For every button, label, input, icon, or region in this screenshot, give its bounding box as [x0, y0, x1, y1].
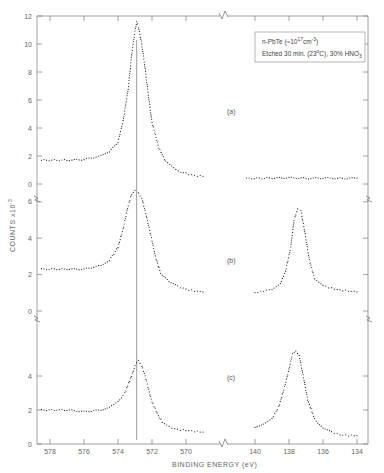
y-axis-title: COUNTS x10-3	[7, 199, 16, 252]
x-tick-label: 578	[44, 448, 56, 455]
y-tick-label: 4	[28, 125, 32, 132]
legend-line-1: n-PbTe (≈1017cm-3)	[262, 36, 318, 46]
xps-spectra-chart: 578576574572570140138136134 024681012024…	[0, 0, 384, 473]
y-tick-label: 12	[24, 13, 32, 20]
x-tick-label: 570	[180, 448, 192, 455]
x-tick-label: 138	[283, 448, 295, 455]
y-tick-label: 8	[28, 69, 32, 76]
panel-label-a: (a)	[227, 108, 236, 116]
y-tick-label: 4	[28, 235, 32, 242]
x-tick-label: 136	[317, 448, 329, 455]
y-tick-label: 0	[28, 441, 32, 448]
y-tick-label: 10	[24, 41, 32, 48]
y-tick-label: 2	[28, 153, 32, 160]
x-axis-title: BINDING ENERGY (eV)	[172, 461, 257, 469]
legend: n-PbTe (≈1017cm-3) Etched 30 min. (23oC)…	[255, 32, 365, 62]
plot-frame	[37, 16, 368, 444]
y-tick-label: 0	[28, 308, 32, 315]
x-axis-ticks: 578576574572570140138136134	[44, 16, 363, 455]
x-tick-label: 140	[249, 448, 261, 455]
panel-label-b: (b)	[227, 257, 236, 265]
x-tick-label: 134	[351, 448, 363, 455]
x-tick-label: 574	[112, 448, 124, 455]
y-tick-label: 0	[28, 181, 32, 188]
axis-break-marks	[34, 11, 372, 447]
x-tick-label: 576	[78, 448, 90, 455]
y-tick-label: 6	[28, 198, 32, 205]
data-points	[41, 21, 358, 437]
x-tick-label: 572	[146, 448, 158, 455]
y-tick-label: 4	[28, 373, 32, 380]
y-axis-ticks: 0246810120246024	[24, 13, 368, 448]
y-tick-label: 2	[28, 407, 32, 414]
y-tick-label: 2	[28, 271, 32, 278]
y-tick-label: 6	[28, 97, 32, 104]
panel-label-c: (c)	[227, 374, 235, 382]
